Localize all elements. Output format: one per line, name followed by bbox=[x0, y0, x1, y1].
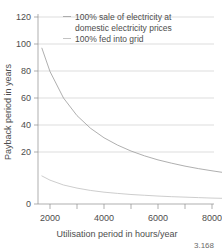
chart-svg: 120 100 80 60 40 20 0 2000 4000 6000 800… bbox=[0, 0, 222, 251]
y-tick-label-40: 40 bbox=[21, 120, 31, 130]
y-tick-label-100: 100 bbox=[16, 39, 31, 49]
y-tick-marks bbox=[34, 17, 38, 204]
y-tick-label-20: 20 bbox=[21, 147, 31, 157]
x-tick-label-8000: 8000 bbox=[202, 213, 222, 223]
x-axis-title: Utilisation period in hours/year bbox=[56, 229, 177, 239]
x-tick-labels: 2000 4000 6000 8000 bbox=[40, 213, 222, 223]
y-tick-label-80: 80 bbox=[21, 66, 31, 76]
legend-label-fed-into-grid: 100% fed into grid bbox=[75, 34, 144, 44]
legend-label-domestic-sale-line2: domestic electricity prices bbox=[75, 23, 172, 33]
y-tick-label-0: 0 bbox=[26, 199, 31, 209]
x-tick-label-6000: 6000 bbox=[148, 213, 168, 223]
y-axis-title: Payback period in years bbox=[3, 63, 13, 160]
figure-caption: 3.168 bbox=[194, 241, 215, 250]
x-tick-marks bbox=[50, 204, 212, 209]
x-tick-label-2000: 2000 bbox=[40, 213, 60, 223]
x-tick-label-4000: 4000 bbox=[94, 213, 114, 223]
legend-label-domestic-sale-line1: 100% sale of electricity at bbox=[75, 12, 172, 22]
y-tick-labels: 120 100 80 60 40 20 0 bbox=[16, 12, 31, 209]
y-tick-label-120: 120 bbox=[16, 12, 31, 22]
series-line-domestic-sale bbox=[42, 48, 222, 173]
y-tick-label-60: 60 bbox=[21, 93, 31, 103]
chart-figure: 120 100 80 60 40 20 0 2000 4000 6000 800… bbox=[0, 0, 222, 251]
chart-legend: 100% sale of electricity at domestic ele… bbox=[63, 12, 172, 44]
series-line-fed-into-grid bbox=[42, 176, 222, 199]
